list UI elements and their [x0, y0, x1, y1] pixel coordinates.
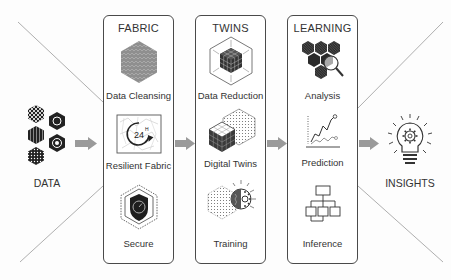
hex-pattern-icon	[119, 40, 159, 84]
stage-item-training: Training	[196, 174, 265, 254]
item-label: Data Reduction	[196, 90, 265, 101]
stage-item-data-reduction: Data Reduction	[196, 36, 265, 116]
cube-compress-icon	[208, 36, 254, 86]
data-label: DATA	[18, 177, 76, 189]
arrow-icon	[75, 137, 97, 150]
item-label: Data Cleansing	[104, 90, 173, 101]
item-label: Secure	[104, 238, 173, 249]
item-label: Resilient Fabric	[104, 160, 173, 171]
hierarchy-tree-icon	[304, 184, 342, 224]
item-label: Analysis	[288, 90, 357, 101]
svg-text:24: 24	[133, 130, 143, 140]
item-label: Training	[196, 238, 265, 249]
stage-panel-fabric: FABRIC Data Cleansing 24 H Resilient Fab…	[103, 15, 174, 264]
hex-data-cluster-icon	[18, 103, 74, 167]
stage-panel-twins: TWINS Data Reduction	[195, 15, 266, 264]
stage-item-data-cleansing: Data Cleansing	[104, 38, 173, 118]
item-label: Digital Twins	[196, 158, 265, 169]
arrow-icon	[267, 137, 287, 150]
cube-twin-icon	[205, 108, 257, 154]
insights-output-node: INSIGHTS	[380, 113, 440, 193]
stage-item-secure: Secure	[104, 176, 173, 256]
stage-item-inference: Inference	[288, 176, 357, 256]
data-input-node: DATA	[18, 103, 78, 191]
arrow-icon	[359, 137, 379, 150]
insights-label: INSIGHTS	[380, 177, 440, 189]
stage-title: FABRIC	[104, 22, 173, 34]
24h-clock-network-icon: 24 H	[116, 114, 162, 154]
stage-item-analysis: Analysis	[288, 40, 357, 120]
line-chart-icon	[303, 114, 343, 150]
stage-title: LEARNING	[288, 22, 357, 34]
stage-panel-learning: LEARNING Analysis	[287, 15, 358, 264]
item-label: Prediction	[288, 157, 357, 168]
svg-text:H: H	[145, 126, 149, 132]
brain-gear-icon	[204, 178, 258, 228]
arrow-icon	[175, 137, 195, 150]
stage-title: TWINS	[196, 22, 265, 34]
lightbulb-gear-icon	[383, 113, 437, 171]
shield-gauge-icon	[119, 184, 159, 230]
item-label: Inference	[288, 238, 357, 249]
hex-magnifier-icon	[300, 40, 346, 82]
